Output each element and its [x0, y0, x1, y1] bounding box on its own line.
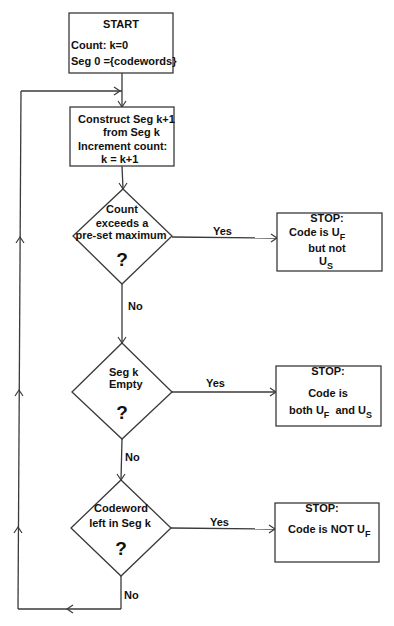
stop-1-line-2: but not — [308, 242, 346, 254]
stop-1-title: STOP: — [310, 212, 343, 224]
construct-line-1: Construct Seg k+1 — [78, 113, 175, 125]
decision-2-line-2: Empty — [109, 378, 144, 390]
stop-1-line-3-text: U — [319, 255, 327, 267]
stop-2-title: STOP: — [311, 365, 344, 377]
stop-2-line-2-text-2: and U — [329, 404, 366, 416]
question-mark-icon: ? — [116, 249, 128, 270]
decision-2-no-label: No — [125, 451, 140, 463]
decision-2: Seg k Empty ? — [72, 343, 172, 439]
stop-node-2: STOP: Code is both UF and US — [276, 365, 381, 426]
flowchart: START Count: k=0 Seg 0 ={codewords} Cons… — [0, 0, 394, 626]
stop-node-3: STOP: Code is NOT UF — [275, 502, 379, 562]
stop-3-title: STOP: — [305, 502, 338, 514]
decision-1: Count exceeds a pre-set maximum ? — [73, 189, 172, 284]
decision-3-yes-label: Yes — [210, 516, 229, 528]
decision-1-line-1: Count — [106, 203, 138, 215]
stop-3-line-1-sub: F — [365, 529, 371, 539]
connector-construct-to-decision-1 — [122, 166, 123, 189]
construct-line-2: from Seg k — [103, 126, 161, 138]
construct-node: Construct Seg k+1 from Seg k Increment c… — [70, 107, 175, 166]
start-title: START — [103, 18, 139, 30]
decision-3-line-2: left in Seg k — [89, 517, 152, 529]
stop-2-line-1: Code is — [308, 387, 348, 399]
stop-3-line-1-text: Code is NOT U — [288, 523, 365, 535]
start-line-count: Count: k=0 — [71, 39, 128, 51]
decision-3-no-label: No — [124, 589, 139, 601]
decision-2-line-1: Seg k — [109, 366, 139, 378]
decision-2-yes-label: Yes — [206, 377, 225, 389]
stop-1-line-3-sub: S — [327, 261, 333, 271]
stop-node-1: STOP: Code is UF but not US — [277, 212, 382, 271]
decision-3: Codeword left in Seg k ? — [71, 480, 171, 576]
construct-line-4: k = k+1 — [101, 153, 138, 165]
question-mark-icon: ? — [116, 402, 128, 423]
construct-line-3: Increment count: — [78, 140, 167, 152]
decision-diamond-2 — [72, 343, 172, 439]
connector-decision-2-no — [121, 439, 122, 480]
decision-3-line-1: Codeword — [94, 502, 148, 514]
start-node: START Count: k=0 Seg 0 ={codewords} — [69, 13, 177, 73]
start-line-seg0: Seg 0 ={codewords} — [71, 55, 177, 67]
decision-1-yes-label: Yes — [213, 225, 232, 237]
decision-1-no-label: No — [128, 300, 143, 312]
connector-decision-1-yes — [172, 237, 277, 238]
connector-decision-3-yes — [171, 528, 275, 529]
stop-1-line-1-sub: F — [340, 232, 346, 242]
decision-1-line-2: exceeds a — [96, 217, 149, 229]
stop-2-line-2-text-1: both U — [289, 404, 324, 416]
stop-2-line-2-sub-2: S — [366, 410, 372, 420]
question-mark-icon: ? — [115, 538, 127, 559]
decision-1-line-3: pre-set maximum — [75, 229, 166, 241]
stop-1-line-1-text: Code is U — [289, 226, 340, 238]
